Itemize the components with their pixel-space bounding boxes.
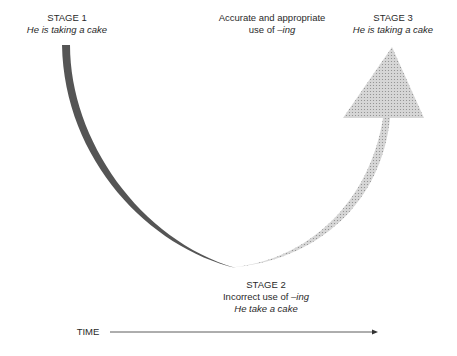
stage2-label: STAGE 2 Incorrect use of –ing He take a … <box>223 279 309 315</box>
time-axis-arrow-icon <box>372 330 378 335</box>
stage2-title: STAGE 2 <box>223 279 309 291</box>
stage1-title: STAGE 1 <box>27 12 107 24</box>
stage3-example: He is taking a cake <box>353 24 433 36</box>
stage1-label: STAGE 1 He is taking a cake <box>27 12 107 36</box>
recovering-curve <box>226 118 390 268</box>
middle-note-line2: use of –ing <box>219 24 326 36</box>
middle-note-line1: Accurate and appropriate <box>219 12 326 24</box>
declining-curve <box>62 45 236 268</box>
middle-note: Accurate and appropriate use of –ing <box>219 12 326 36</box>
stage1-example: He is taking a cake <box>27 24 107 36</box>
stage2-line2: Incorrect use of –ing <box>223 291 309 303</box>
stage3-title: STAGE 3 <box>353 12 433 24</box>
stage3-arrowhead-icon <box>343 47 424 118</box>
time-axis-label: TIME <box>77 326 100 338</box>
stage3-label: STAGE 3 He is taking a cake <box>353 12 433 36</box>
stage2-example: He take a cake <box>223 303 309 315</box>
